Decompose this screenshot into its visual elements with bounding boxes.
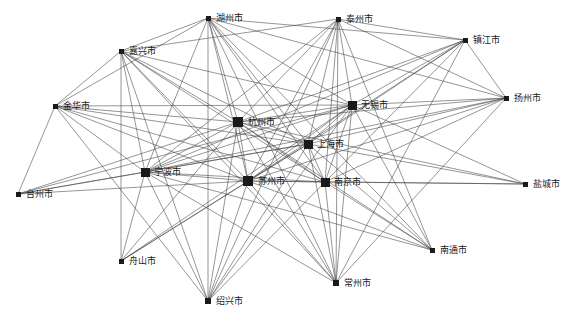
graph-edge — [208, 18, 248, 181]
graph-edge — [55, 106, 145, 172]
node-marker[interactable] — [463, 38, 468, 43]
graph-edge — [208, 18, 325, 182]
node-label: 台州市 — [26, 188, 53, 199]
graph-node-changzhou[interactable]: 常州市 — [333, 277, 371, 288]
graph-edge — [248, 40, 465, 181]
node-marker[interactable] — [119, 49, 124, 54]
network-graph-canvas: 湖州市泰州市镇江市嘉兴市扬州市无锡市金华市杭州市上海市宁波市苏州市南京市盐城市台… — [0, 0, 571, 322]
node-label: 无锡市 — [361, 99, 388, 110]
node-label: 湖州市 — [216, 12, 243, 23]
graph-edge — [55, 105, 352, 106]
node-label: 金华市 — [63, 100, 90, 111]
node-label: 宁波市 — [154, 166, 181, 177]
node-label: 绍兴市 — [216, 295, 243, 306]
graph-edge — [55, 106, 325, 182]
node-marker[interactable] — [321, 178, 330, 187]
graph-edge — [325, 98, 506, 182]
graph-edge — [238, 19, 338, 122]
graph-node-wuxi[interactable]: 无锡市 — [348, 99, 389, 110]
graph-edge — [121, 105, 352, 261]
node-marker[interactable] — [523, 182, 528, 187]
graph-node-yancheng[interactable]: 盐城市 — [523, 178, 561, 189]
graph-edge — [338, 19, 432, 250]
node-label: 南京市 — [334, 176, 361, 187]
graph-edge — [248, 98, 506, 181]
node-marker[interactable] — [348, 101, 357, 110]
graph-node-shanghai[interactable]: 上海市 — [304, 138, 345, 149]
node-marker[interactable] — [504, 96, 509, 101]
graph-edge — [208, 18, 506, 98]
node-marker[interactable] — [53, 104, 58, 109]
graph-edge — [208, 181, 248, 301]
graph-edge — [145, 122, 238, 172]
graph-edge — [352, 105, 432, 250]
node-marker[interactable] — [430, 248, 435, 253]
graph-node-suzhou[interactable]: 苏州市 — [243, 175, 285, 186]
node-marker[interactable] — [333, 280, 339, 286]
node-marker[interactable] — [16, 192, 21, 197]
node-marker[interactable] — [206, 16, 211, 21]
graph-node-taizhou_js[interactable]: 泰州市 — [336, 13, 374, 24]
node-marker[interactable] — [336, 17, 341, 22]
graph-edge — [338, 19, 352, 105]
node-label: 泰州市 — [346, 13, 373, 24]
node-label: 苏州市 — [258, 175, 285, 186]
graph-edge — [145, 18, 208, 172]
graph-node-ningbo[interactable]: 宁波市 — [141, 166, 182, 177]
node-label: 舟山市 — [129, 255, 156, 266]
graph-node-nantong[interactable]: 南通市 — [430, 244, 468, 255]
node-marker[interactable] — [304, 140, 313, 149]
node-label: 杭州市 — [248, 116, 275, 127]
graph-edge — [145, 172, 208, 301]
graph-node-zhenjiang[interactable]: 镇江市 — [463, 34, 501, 45]
graph-edge — [55, 51, 121, 106]
graph-edge — [208, 144, 308, 301]
graph-node-jinhua[interactable]: 金华市 — [53, 100, 91, 111]
node-marker[interactable] — [243, 176, 253, 186]
graph-edge — [248, 181, 336, 283]
graph-edge — [18, 106, 55, 194]
graph-edge — [352, 105, 525, 184]
node-label: 南通市 — [440, 244, 467, 255]
graph-edge — [308, 144, 336, 283]
graph-edge — [336, 98, 506, 283]
node-label: 上海市 — [317, 138, 344, 149]
node-marker[interactable] — [141, 168, 150, 177]
graph-edge — [55, 106, 208, 301]
node-label: 盐城市 — [533, 178, 560, 189]
graph-edge — [208, 182, 325, 301]
graph-node-hangzhou[interactable]: 杭州市 — [233, 116, 275, 127]
graph-edge — [465, 40, 506, 98]
node-marker[interactable] — [233, 117, 243, 127]
graph-edge — [338, 19, 506, 98]
node-marker[interactable] — [119, 259, 124, 264]
node-label: 常州市 — [344, 277, 371, 288]
node-marker[interactable] — [205, 298, 211, 304]
edge-layer — [18, 18, 525, 301]
node-label: 镇江市 — [473, 34, 500, 45]
graph-edge — [121, 122, 238, 261]
node-layer: 湖州市泰州市镇江市嘉兴市扬州市无锡市金华市杭州市上海市宁波市苏州市南京市盐城市台… — [16, 12, 561, 306]
node-label: 嘉兴市 — [129, 45, 156, 56]
network-graph-svg: 湖州市泰州市镇江市嘉兴市扬州市无锡市金华市杭州市上海市宁波市苏州市南京市盐城市台… — [0, 0, 571, 322]
graph-node-yangzhou[interactable]: 扬州市 — [504, 92, 542, 103]
graph-edge — [121, 51, 352, 105]
graph-node-nanjing[interactable]: 南京市 — [321, 176, 362, 187]
graph-node-zhoushan[interactable]: 舟山市 — [119, 255, 157, 266]
node-label: 扬州市 — [514, 92, 541, 103]
